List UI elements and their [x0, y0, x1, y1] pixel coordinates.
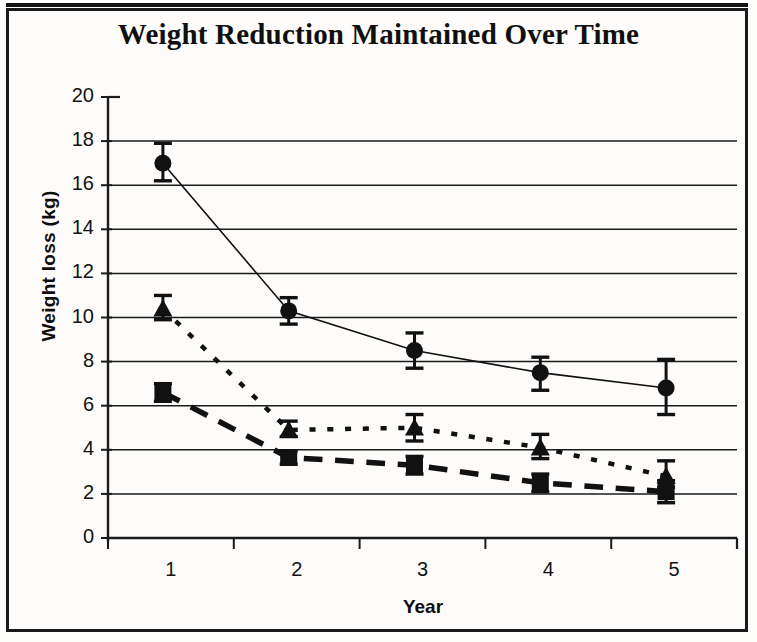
marker-circle: [658, 380, 675, 397]
axis-lines: [101, 97, 737, 549]
marker-square: [532, 474, 549, 491]
chart-screenshot: Weight Reduction Maintained Over Time We…: [0, 0, 757, 642]
series-square-series: [154, 384, 675, 503]
series-circle-series: [154, 143, 675, 414]
plot-area: Weight loss (kg) Year 02468101214161820 …: [0, 0, 757, 642]
marker-circle: [154, 155, 171, 172]
gridlines: [108, 141, 737, 538]
marker-circle: [280, 302, 297, 319]
marker-circle: [406, 342, 423, 359]
marker-square: [280, 449, 297, 466]
marker-square: [154, 384, 171, 401]
marker-triangle: [531, 438, 550, 455]
marker-triangle: [153, 299, 172, 316]
series-layer: [153, 143, 675, 502]
marker-square: [658, 483, 675, 500]
marker-square: [406, 457, 423, 474]
chart-canvas: [0, 0, 757, 642]
marker-circle: [532, 364, 549, 381]
